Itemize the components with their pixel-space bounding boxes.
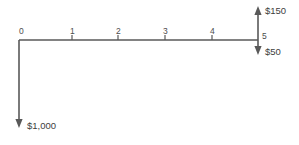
arrow-up-icon-period-5 (254, 6, 261, 15)
period-label-0: 0 (19, 26, 24, 36)
arrow-down-icon-period-0 (15, 119, 22, 128)
arrow-down-icon-period-5 (254, 46, 261, 55)
cash-flow-timeline-svg: 0 1 2 3 4 5 $150 $50 $1,000 (0, 0, 299, 145)
amount-label-period-0-outflow: $1,000 (27, 120, 56, 131)
period-label-2: 2 (116, 26, 121, 36)
period-label-4: 4 (210, 26, 215, 36)
period-label-3: 3 (163, 26, 168, 36)
period-label-1: 1 (70, 26, 75, 36)
amount-label-period-5-outflow: $50 (265, 46, 281, 57)
amount-label-period-5-inflow: $150 (265, 5, 286, 16)
cash-flow-diagram: 0 1 2 3 4 5 $150 $50 $1,000 (0, 0, 299, 145)
period-label-5: 5 (262, 31, 267, 41)
